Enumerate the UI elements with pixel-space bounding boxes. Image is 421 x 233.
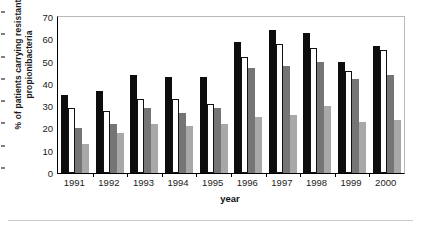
bar	[317, 62, 324, 173]
bar	[303, 33, 310, 173]
bar	[82, 144, 89, 173]
bar	[241, 57, 248, 173]
plot-area: 010203040506070	[57, 16, 405, 174]
y-axis-tick-label: 0	[5, 168, 58, 179]
bar-group	[58, 17, 93, 173]
bar	[207, 104, 214, 173]
bar	[68, 108, 75, 173]
bar	[324, 106, 331, 173]
bar	[214, 108, 221, 173]
y-axis-tick-label: 60	[5, 34, 58, 45]
bar-group	[231, 17, 266, 173]
bar	[290, 115, 297, 173]
bar	[380, 50, 387, 173]
bar	[165, 77, 172, 173]
bar	[61, 95, 68, 173]
bar-group	[266, 17, 301, 173]
bar-group	[369, 17, 404, 173]
y-axis-tick-mark	[1, 78, 5, 79]
y-axis-tick-label: 20	[5, 123, 58, 134]
bar	[103, 111, 110, 173]
bars-container	[58, 17, 404, 173]
bar	[179, 113, 186, 173]
bar	[130, 75, 137, 173]
y-axis-tick-label: 50	[5, 56, 58, 67]
bar	[75, 128, 82, 173]
bar-group	[93, 17, 128, 173]
bar-group	[300, 17, 335, 173]
bar	[387, 75, 394, 173]
bar	[345, 71, 352, 174]
bottom-divider	[8, 220, 413, 221]
y-axis-tick-mark	[1, 34, 5, 35]
y-axis-tick-mark	[1, 56, 5, 57]
bar	[110, 124, 117, 173]
x-axis-title: year	[57, 193, 403, 204]
y-axis-tick-label: 70	[5, 12, 58, 23]
bar	[137, 99, 144, 173]
x-axis-tick-label: 2000	[364, 177, 408, 188]
bar	[96, 91, 103, 173]
y-axis-tick-mark	[1, 123, 5, 124]
bar	[352, 79, 359, 173]
bar	[359, 122, 366, 173]
bar	[234, 42, 241, 173]
chart-figure: % of patients carrying resistant propion…	[0, 0, 421, 233]
y-axis-tick-label: 40	[5, 78, 58, 89]
y-axis-tick-mark	[1, 168, 5, 169]
bar	[248, 68, 255, 173]
bar	[186, 126, 193, 173]
bar	[310, 48, 317, 173]
y-axis-tick-label: 30	[5, 101, 58, 112]
bar	[221, 124, 228, 173]
bar	[144, 108, 151, 173]
bar	[117, 133, 124, 173]
y-axis-tick-mark	[1, 145, 5, 146]
bar	[200, 77, 207, 173]
bar	[283, 66, 290, 173]
bar	[172, 99, 179, 173]
bar	[338, 62, 345, 173]
bar	[151, 124, 158, 173]
bar	[255, 117, 262, 173]
bar-group	[335, 17, 370, 173]
bar	[276, 44, 283, 173]
bar	[373, 46, 380, 173]
bar	[269, 30, 276, 173]
y-axis-tick-mark	[1, 101, 5, 102]
bar-group	[162, 17, 197, 173]
bar	[394, 120, 401, 173]
bar-group	[196, 17, 231, 173]
bar-group	[127, 17, 162, 173]
y-axis-tick-mark	[1, 12, 5, 13]
y-axis-tick-label: 10	[5, 145, 58, 156]
